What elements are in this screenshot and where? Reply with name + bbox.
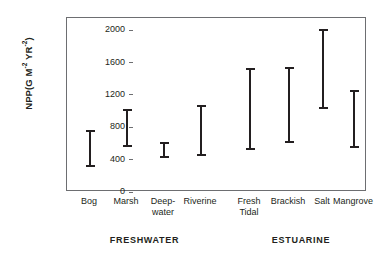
group-label-estuarine: ESTUARINE (216, 235, 386, 245)
plot-area: 0400800120016002000 (66, 17, 366, 191)
errorbar-cap-lower (350, 146, 359, 148)
y-axis-tick-label: 1600 (67, 57, 125, 67)
errorbar-cap-upper (197, 105, 206, 107)
errorbar-cap-upper (285, 67, 294, 69)
errorbar-cap-lower (123, 145, 132, 147)
y-axis-tick-mark (129, 30, 133, 31)
errorbar-stem (288, 67, 290, 143)
y-axis-tick-mark (129, 192, 133, 193)
y-axis-tick-label: 400 (67, 154, 125, 164)
errorbar-stem (89, 130, 91, 166)
y-axis-title: NPP(G M-2 YR-2) (23, 0, 34, 149)
errorbar-cap-upper (123, 109, 132, 111)
errorbar-stem (200, 105, 202, 156)
errorbar-stem (249, 68, 251, 151)
errorbar-cap-lower (86, 165, 95, 167)
errorbar-stem (353, 90, 355, 148)
errorbar-cap-lower (319, 107, 328, 109)
errorbar-cap-lower (160, 156, 169, 158)
x-axis-label-mangrove: Mangrove (320, 196, 386, 207)
y-axis-tick-label: 2000 (67, 24, 125, 34)
errorbar-cap-upper (319, 29, 328, 31)
errorbar-cap-lower (285, 141, 294, 143)
errorbar-cap-lower (246, 148, 255, 150)
errorbar-cap-lower (197, 154, 206, 156)
errorbar-stem (322, 29, 324, 109)
errorbar-cap-upper (350, 90, 359, 92)
y-axis-tick-label: 800 (67, 121, 125, 131)
y-axis-tick-mark (129, 127, 133, 128)
group-label-freshwater: FRESHWATER (60, 235, 230, 245)
y-axis-tick-mark (129, 62, 133, 63)
errorbar-cap-upper (160, 142, 169, 144)
errorbar-stem (126, 109, 128, 147)
errorbar-cap-upper (246, 68, 255, 70)
y-axis-tick-label: 1200 (67, 89, 125, 99)
y-axis-tick-label: 0 (67, 186, 125, 196)
chart-figure: NPP(G M-2 YR-2) 0400800120016002000 BogM… (0, 0, 388, 265)
y-axis-tick-mark (129, 159, 133, 160)
y-axis-tick-mark (129, 94, 133, 95)
errorbar-cap-upper (86, 130, 95, 132)
